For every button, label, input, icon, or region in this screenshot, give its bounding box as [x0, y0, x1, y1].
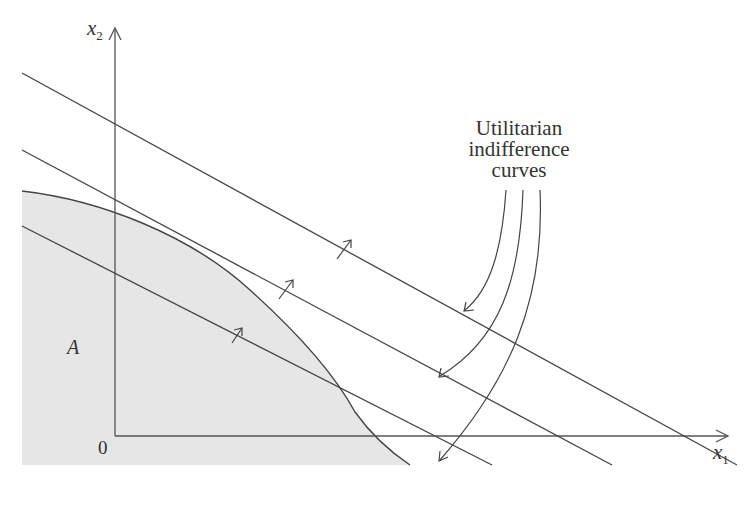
- direction-arrow-icon: [337, 240, 351, 259]
- direction-arrow-icon: [279, 280, 293, 299]
- origin-label: 0: [98, 438, 108, 457]
- annotation-pointer-icon: [439, 190, 540, 461]
- annotation-text: Utilitarian indifference curves: [468, 118, 570, 181]
- annotation-line-3: curves: [468, 160, 570, 181]
- annotation-line-1: Utilitarian: [468, 118, 570, 139]
- x1-axis-label: x1: [713, 442, 729, 463]
- annotation-pointer-icon: [464, 190, 506, 311]
- annotation-pointer-icon: [439, 190, 523, 377]
- feasible-region-A: [22, 191, 410, 465]
- x2-axis-label: x2: [87, 18, 103, 39]
- annotation-line-2: indifference: [468, 139, 570, 160]
- utilitarian-diagram: [0, 0, 751, 510]
- region-A-label: A: [67, 337, 79, 357]
